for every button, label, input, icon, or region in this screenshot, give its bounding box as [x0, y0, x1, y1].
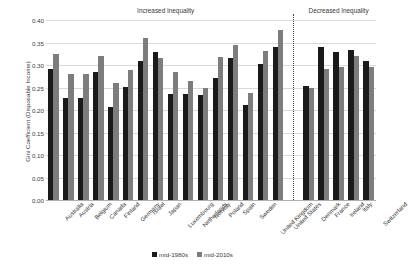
y-axis-tick-label: 0.35 — [20, 39, 44, 46]
bar — [83, 74, 88, 200]
bar — [158, 58, 163, 200]
bar — [218, 57, 223, 200]
legend-label: mid-2010s — [204, 251, 233, 258]
x-axis-category-labels: AustraliaAustriaBelgiumCanadaFinlandGerm… — [46, 201, 376, 257]
bar — [68, 74, 73, 200]
plot-area: Increased InequalityDecreased Inequality — [46, 20, 376, 200]
legend-item: mid-2010s — [197, 251, 233, 258]
y-axis-tick-label: 0.00 — [20, 197, 44, 204]
bar — [188, 81, 193, 200]
chart-legend: mid-1980smid-2010s — [0, 251, 385, 258]
bar — [233, 45, 238, 200]
bar — [143, 38, 148, 200]
legend-swatch-icon — [197, 252, 202, 257]
bar — [248, 93, 253, 200]
y-axis-tick-labels: 0.400.350.300.250.200.150.100.050.00 — [20, 20, 44, 200]
y-axis-tick-label: 0.40 — [20, 17, 44, 24]
bar — [173, 72, 178, 200]
y-axis-tick-label: 0.30 — [20, 62, 44, 69]
x-axis-label: Switzerland — [382, 201, 408, 227]
bar — [369, 67, 374, 200]
bar — [324, 69, 329, 200]
y-axis-tick-label: 0.10 — [20, 152, 44, 159]
bar — [354, 56, 359, 200]
y-axis-tick-label: 0.25 — [20, 84, 44, 91]
bar — [263, 51, 268, 200]
legend-label: mid-1980s — [159, 251, 188, 258]
x-axis-label: Sweden — [258, 201, 278, 221]
legend-item: mid-1980s — [152, 251, 188, 258]
group-label-decreased-inequality: Decreased Inequality — [309, 7, 369, 14]
bar — [203, 88, 208, 200]
bar — [309, 88, 314, 201]
bars-layer — [46, 20, 376, 200]
bar — [128, 70, 133, 201]
group-divider-line — [293, 14, 294, 200]
bar — [339, 67, 344, 200]
legend-swatch-icon — [152, 252, 157, 257]
y-axis-tick-label: 0.05 — [20, 174, 44, 181]
x-axis-label: Japan — [167, 201, 183, 217]
y-axis-tick-label: 0.15 — [20, 129, 44, 136]
bar — [113, 83, 118, 200]
group-label-increased-inequality: Increased Inequality — [137, 7, 194, 14]
bar — [53, 54, 58, 200]
bar — [98, 56, 103, 200]
bar — [278, 30, 283, 200]
y-axis-tick-label: 0.20 — [20, 107, 44, 114]
